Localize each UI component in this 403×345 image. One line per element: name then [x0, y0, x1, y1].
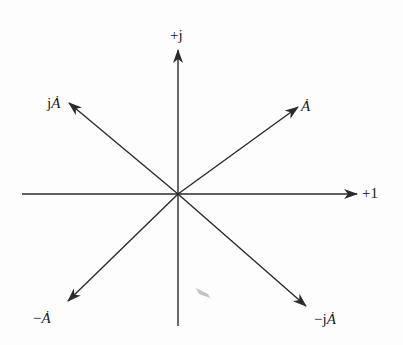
phasor-jA-label: jȦ: [47, 96, 60, 111]
phasor-negative-A-label: −Ȧ: [33, 311, 51, 326]
real-axis-label: +1: [362, 186, 378, 201]
phasor-negative-A-arrow: [68, 194, 178, 301]
phasor-A-arrow: [178, 107, 298, 194]
phasor-jA-arrow: [69, 103, 178, 194]
scan-artifact: [196, 288, 210, 298]
phasor-diagram: +1 +j Ȧ jȦ −Ȧ −jȦ: [0, 0, 403, 345]
phasor-A-label: Ȧ: [301, 99, 310, 114]
imaginary-axis-label: +j: [170, 28, 183, 43]
phasor-negative-jA-label: −jȦ: [314, 312, 336, 327]
phasor-diagram-graphic: [0, 0, 403, 345]
